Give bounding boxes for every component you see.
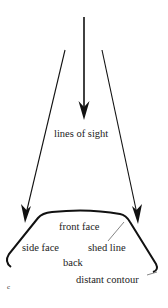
label-back: back	[63, 257, 83, 269]
label-panel-letter: c	[7, 281, 10, 293]
label-front-face: front face	[59, 221, 100, 233]
central-sight-arrow	[79, 17, 90, 120]
label-shed-line: shed line	[88, 242, 126, 254]
label-distant-contour: distant contour	[76, 274, 139, 286]
label-lines-of-sight: lines of sight	[54, 128, 108, 140]
shed-line-leader	[108, 222, 124, 241]
diagram-canvas	[0, 0, 168, 308]
label-side-face: side face	[22, 242, 59, 254]
distant-contour-leader	[147, 272, 157, 275]
